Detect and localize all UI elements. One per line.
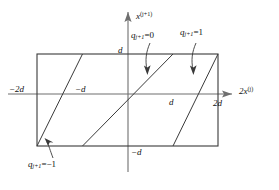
y-axis-label: x(j+1) [136,11,152,21]
annotation-q-minus-one: qj+1=−1 [28,160,56,169]
leader-q-zero [146,43,150,70]
y-tick-minus-d: −d [131,148,142,157]
x-tick-d: d [169,98,174,107]
leader-arrow-q-one [190,65,197,75]
x-tick-minus-d: −d [75,85,86,94]
diagonal-line-q-minus-one [37,54,83,146]
y-tick-d: d [118,46,123,55]
leader-arrow-q-zero [144,65,151,75]
annotation-q-one: qj+1=1 [180,28,203,37]
x-axis-label: 2x(j) [239,86,253,96]
x-tick-minus-2d: −2d [9,85,24,94]
x-tick-2d: 2d [213,99,222,108]
leader-q-one [192,43,196,70]
leader-arrow-q-minus-one [45,138,54,146]
annotation-q-zero: qj+1=0 [131,31,154,40]
